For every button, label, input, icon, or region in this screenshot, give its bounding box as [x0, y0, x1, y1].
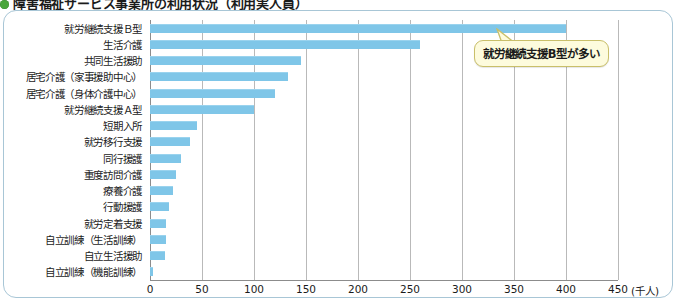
y-axis-labels: 就労継続支援Ｂ型生活介護共同生活援助居宅介護（家事援助中心）居宅介護（身体介護中…: [0, 20, 146, 280]
y-axis-label: 就労移行支援: [0, 134, 146, 150]
x-axis-line: [150, 280, 618, 281]
y-axis-label: 就労定着支援: [0, 215, 146, 231]
x-axis-tick-350: 350: [504, 283, 524, 295]
bar: [150, 40, 420, 49]
y-axis-label: 自立訓練（生活訓練）: [0, 231, 146, 247]
gridline-450: [618, 20, 619, 280]
bar-row: [150, 69, 618, 85]
bar: [150, 121, 197, 130]
x-axis-tick-300: 300: [452, 283, 472, 295]
bar-row: [150, 215, 618, 231]
bar: [150, 72, 288, 81]
bar-row: [150, 264, 618, 280]
bar-row: [150, 150, 618, 166]
y-axis-label: 短期入所: [0, 118, 146, 134]
bar-row: [150, 231, 618, 247]
y-axis-label: 就労継続支援Ｂ型: [0, 20, 146, 36]
chart-page: 障害福祉サービス事業所の利用状況（利用実人員） 就労継続支援Ｂ型生活介護共同生活…: [0, 0, 680, 302]
bar: [150, 267, 153, 276]
y-axis-label: 自立訓練（機能訓練）: [0, 264, 146, 280]
y-axis-label: 生活介護: [0, 36, 146, 52]
bar-row: [150, 248, 618, 264]
y-axis-label: 自立生活援助: [0, 248, 146, 264]
x-axis-tick-0: 0: [147, 283, 154, 295]
bar: [150, 251, 165, 260]
bar-row: [150, 183, 618, 199]
bar-row: [150, 134, 618, 150]
bar: [150, 186, 173, 195]
y-axis-label: 同行援護: [0, 150, 146, 166]
x-axis-tick-200: 200: [348, 283, 368, 295]
y-axis-label: 重度訪問介護: [0, 166, 146, 182]
bullet-icon: [0, 0, 9, 9]
x-axis-tick-450: 450: [608, 283, 628, 295]
bar: [150, 202, 169, 211]
bar-row: [150, 20, 618, 36]
bar: [150, 56, 301, 65]
bar: [150, 219, 166, 228]
y-axis-label: 居宅介護（家事援助中心）: [0, 69, 146, 85]
bar-row: [150, 118, 618, 134]
bar-row: [150, 85, 618, 101]
y-axis-label: 療養介護: [0, 183, 146, 199]
bar: [150, 170, 176, 179]
y-axis-label: 就労継続支援Ａ型: [0, 101, 146, 117]
callout-label: 就労継続支援B型が多い: [474, 40, 609, 67]
y-axis-label: 居宅介護（身体介護中心）: [0, 85, 146, 101]
bar-row: [150, 199, 618, 215]
x-axis-tick-400: 400: [556, 283, 576, 295]
bar: [150, 105, 254, 114]
x-axis-unit: (千人): [631, 283, 659, 298]
bar-row: [150, 166, 618, 182]
y-axis-label: 共同生活援助: [0, 53, 146, 69]
bar-row: [150, 101, 618, 117]
bar: [150, 235, 166, 244]
x-axis-tick-50: 50: [195, 283, 208, 295]
x-axis-tick-100: 100: [244, 283, 264, 295]
x-axis-tick-250: 250: [400, 283, 420, 295]
x-axis-labels: 050100150200250300350400450(千人): [150, 283, 680, 299]
x-axis-tick-150: 150: [296, 283, 316, 295]
y-axis-label: 行動援護: [0, 199, 146, 215]
bar: [150, 137, 190, 146]
bar: [150, 89, 275, 98]
bar: [150, 154, 181, 163]
